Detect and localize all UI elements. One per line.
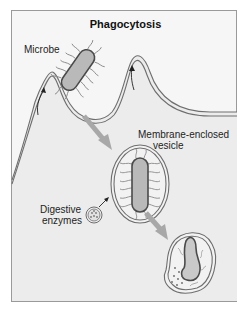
label-vesicle-line2: vesicle	[153, 140, 184, 151]
vesicle	[111, 145, 169, 223]
diagram-title: Phagocytosis	[0, 18, 251, 30]
label-vesicle-line1: Membrane-enclosed	[138, 129, 229, 140]
label-enzymes-line1: Digestive	[40, 204, 81, 215]
enzyme-granule	[86, 207, 102, 223]
label-enzymes-line2: enzymes	[42, 215, 82, 226]
label-microbe: Microbe	[24, 44, 60, 55]
